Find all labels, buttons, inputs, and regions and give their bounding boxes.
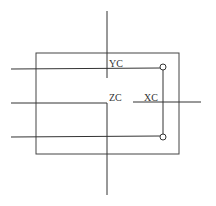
label-zc: ZC — [109, 92, 122, 103]
bottom-horizontal-line — [11, 136, 160, 137]
label-xc: XC — [144, 92, 158, 103]
label-yc: YC — [109, 58, 123, 69]
coordinate-diagram: YC ZC XC — [0, 0, 216, 206]
top-horizontal-line — [11, 68, 160, 69]
bottom-node-circle — [160, 134, 166, 140]
top-node-circle — [160, 64, 166, 70]
